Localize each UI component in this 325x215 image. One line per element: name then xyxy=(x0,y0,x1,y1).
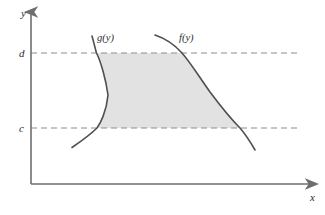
x-axis-label: x xyxy=(309,191,315,203)
g-curve-label: g(y) xyxy=(97,32,114,44)
y-axis-label: y xyxy=(20,7,26,19)
tick-label-d: d xyxy=(19,47,25,59)
graph-canvas: y x d c g(y) f(y) xyxy=(0,0,325,215)
region-between-curves xyxy=(97,53,241,128)
tick-label-c: c xyxy=(19,122,24,134)
figure-container: y x d c g(y) f(y) xyxy=(0,0,325,215)
f-curve-label: f(y) xyxy=(179,32,194,44)
